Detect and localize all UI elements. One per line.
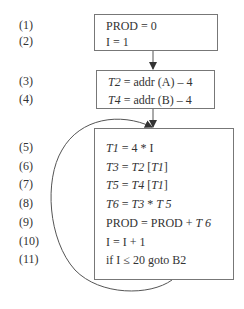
block-b1: T2 = addr (A) – 4 T4 = addr (B) – 4 xyxy=(96,70,215,109)
code-line: I = 1 xyxy=(106,35,129,49)
line-number: (8) xyxy=(19,196,33,210)
code-line: PROD = PROD + T 6 xyxy=(106,216,211,230)
line-number: (10) xyxy=(19,234,39,248)
code-line: T5 = T4 [T1] xyxy=(106,178,168,192)
code-line: T4 = addr (B) – 4 xyxy=(108,93,192,107)
line-number: (11) xyxy=(19,252,39,266)
line-number: (6) xyxy=(19,159,33,173)
line-number: (2) xyxy=(19,34,33,48)
code-line: PROD = 0 xyxy=(106,19,157,33)
line-number: (3) xyxy=(19,74,33,88)
code-line: T6 = T3 * T 5 xyxy=(106,197,172,211)
line-number: (9) xyxy=(19,215,33,229)
line-number: (1) xyxy=(19,18,33,32)
block-b0: PROD = 0 I = 1 xyxy=(94,14,218,51)
code-line: I = I + 1 xyxy=(106,235,146,249)
code-line: T2 = addr (A) – 4 xyxy=(108,75,192,89)
block-b2: T1 = 4 * I T3 = T2 [T1] T5 = T4 [T1] T6 … xyxy=(94,128,234,280)
line-number: (5) xyxy=(19,140,33,154)
code-line: T1 = 4 * I xyxy=(106,141,153,155)
line-number: (7) xyxy=(19,177,33,191)
code-line: if I ≤ 20 goto B2 xyxy=(106,253,186,267)
line-number: (4) xyxy=(19,92,33,106)
code-line: T3 = T2 [T1] xyxy=(106,160,168,174)
